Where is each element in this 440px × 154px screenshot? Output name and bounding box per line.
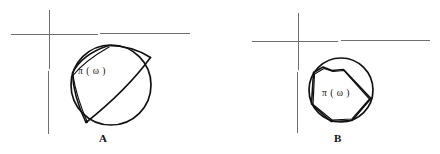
panel-a-region-label: π ( ω ) xyxy=(78,66,106,76)
panel-b-label: B xyxy=(334,132,341,144)
panel-b-group xyxy=(252,13,430,133)
panel-b-vertical-axis xyxy=(298,13,299,133)
figure-canvas xyxy=(0,0,440,154)
panel-b-horizontal-axis xyxy=(252,41,430,42)
figure-container: π ( ω ) π ( ω ) A B xyxy=(0,0,440,154)
panel-a-arc-top-chord xyxy=(108,46,151,58)
panel-a-horizontal-axis xyxy=(11,34,190,35)
panel-a-vertical-axis xyxy=(49,10,50,134)
panel-a-label: A xyxy=(99,132,107,144)
panel-b-region-label: π ( ω ) xyxy=(322,88,350,98)
